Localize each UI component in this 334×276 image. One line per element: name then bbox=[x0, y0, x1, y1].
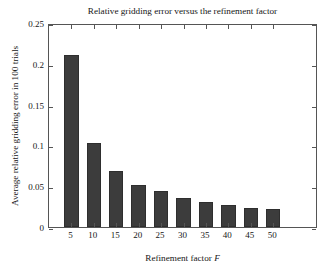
bar bbox=[87, 143, 101, 227]
bar bbox=[64, 55, 78, 227]
x-axis-tick-label: 20 bbox=[125, 230, 151, 240]
y-axis-tick-mark bbox=[312, 229, 316, 230]
y-axis-tick-mark bbox=[49, 107, 53, 108]
y-axis-tick-mark bbox=[49, 66, 53, 67]
chart-figure: Relative gridding error versus the refin… bbox=[0, 0, 334, 276]
x-axis-tick-mark bbox=[228, 25, 229, 29]
x-axis-tick-mark bbox=[116, 25, 117, 29]
y-axis-tick-mark bbox=[312, 66, 316, 67]
bar bbox=[131, 185, 145, 227]
x-axis-tick-mark bbox=[139, 223, 140, 227]
chart-title: Relative gridding error versus the refin… bbox=[48, 5, 317, 17]
y-axis-tick-mark bbox=[49, 25, 53, 26]
x-axis-tick-label: 45 bbox=[237, 230, 263, 240]
x-axis-tick-label: 50 bbox=[259, 230, 285, 240]
x-axis-tick-mark bbox=[94, 223, 95, 227]
x-axis-tick-mark bbox=[94, 25, 95, 29]
x-axis-tick-label: 35 bbox=[192, 230, 218, 240]
y-axis-tick-mark bbox=[49, 229, 53, 230]
x-axis-tick-label: 40 bbox=[214, 230, 240, 240]
x-axis-label: Refinement factor F bbox=[48, 253, 317, 263]
x-axis-tick-mark bbox=[251, 223, 252, 227]
x-axis-tick-mark bbox=[206, 25, 207, 29]
x-axis-tick-mark bbox=[116, 223, 117, 227]
bar bbox=[154, 191, 168, 227]
y-axis-tick-mark bbox=[49, 188, 53, 189]
x-axis-tick-label: 25 bbox=[147, 230, 173, 240]
x-axis-tick-mark bbox=[251, 25, 252, 29]
x-axis-tick-mark bbox=[71, 223, 72, 227]
x-axis-label-symbol: F bbox=[214, 253, 220, 263]
y-axis-tick-mark bbox=[312, 188, 316, 189]
x-axis-tick-mark bbox=[273, 25, 274, 29]
x-axis-tick-mark bbox=[161, 223, 162, 227]
y-axis-label: Average relative gridding error in 100 t… bbox=[10, 46, 20, 206]
x-axis-tick-label: 10 bbox=[80, 230, 106, 240]
x-axis-tick-label: 5 bbox=[57, 230, 83, 240]
y-axis-tick-mark bbox=[312, 107, 316, 108]
x-axis-tick-mark bbox=[273, 223, 274, 227]
y-axis-tick-mark bbox=[312, 25, 316, 26]
bar bbox=[109, 171, 123, 227]
x-axis-tick-mark bbox=[184, 223, 185, 227]
y-axis-tick-mark bbox=[312, 147, 316, 148]
plot-area bbox=[48, 24, 317, 228]
x-axis-tick-mark bbox=[139, 25, 140, 29]
y-axis-label-container: Average relative gridding error in 100 t… bbox=[8, 24, 22, 228]
x-axis-tick-label: 30 bbox=[170, 230, 196, 240]
x-axis-tick-mark bbox=[228, 223, 229, 227]
x-axis-tick-label: 15 bbox=[102, 230, 128, 240]
x-axis-tick-mark bbox=[71, 25, 72, 29]
x-axis-tick-mark bbox=[161, 25, 162, 29]
x-axis-tick-mark bbox=[206, 223, 207, 227]
x-axis-tick-labels: 5101520253035404550 bbox=[48, 230, 317, 244]
y-axis-tick-mark bbox=[49, 147, 53, 148]
x-axis-tick-mark bbox=[184, 25, 185, 29]
